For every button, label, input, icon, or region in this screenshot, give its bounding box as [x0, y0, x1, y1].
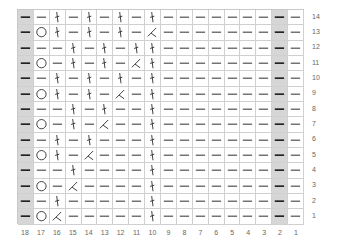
purl-icon [129, 25, 144, 39]
purl-icon [288, 148, 303, 162]
stitch-cell [18, 102, 34, 117]
stitch-cell [113, 25, 129, 40]
stitch-cell [97, 194, 113, 209]
stitch-cell [97, 179, 113, 194]
purl-icon [113, 194, 128, 208]
stitch-cell [82, 56, 98, 71]
stitch-cell [256, 41, 272, 56]
stitch-cell [272, 117, 288, 132]
stitch-cell [161, 71, 177, 86]
twisted-stitch-icon [145, 179, 160, 193]
purl-icon [225, 117, 240, 131]
purl-icon [161, 194, 176, 208]
stitch-cell [240, 209, 256, 224]
purl-icon [113, 179, 128, 193]
stitch-cell [82, 25, 98, 40]
purl-icon [240, 179, 255, 193]
purl-icon [177, 71, 192, 85]
stitch-cell [161, 25, 177, 40]
purl-icon [129, 71, 144, 85]
stitch-cell [161, 133, 177, 148]
yarn-over-icon [34, 148, 49, 162]
purl-icon [288, 10, 303, 24]
stitch-cell [288, 41, 304, 56]
stitch-cell [34, 10, 50, 25]
purl-icon [272, 163, 287, 177]
purl-icon [177, 194, 192, 208]
purl-icon [34, 41, 49, 55]
purl-icon [82, 102, 97, 116]
stitch-cell [288, 148, 304, 163]
stitch-cell [193, 148, 209, 163]
stitch-cell [34, 209, 50, 224]
purl-icon [209, 56, 224, 70]
stitch-cell [66, 163, 82, 178]
stitch-cell [177, 117, 193, 132]
purl-icon [34, 194, 49, 208]
purl-icon [225, 102, 240, 116]
purl-icon [193, 194, 208, 208]
stitch-cell [50, 102, 66, 117]
twisted-stitch-icon [82, 133, 97, 147]
row-label: 9 [312, 89, 326, 96]
stitch-cell [18, 133, 34, 148]
stitch-cell [177, 87, 193, 102]
stitch-cell [66, 179, 82, 194]
stitch-cell [161, 87, 177, 102]
stitch-cell [193, 25, 209, 40]
purl-icon [129, 117, 144, 131]
yarn-over-icon [34, 56, 49, 70]
stitch-cell [209, 117, 225, 132]
stitch-cell [97, 102, 113, 117]
stitch-cell [129, 56, 145, 71]
purl-icon [161, 117, 176, 131]
stitch-cell [145, 194, 161, 209]
stitch-cell [225, 133, 241, 148]
stitch-cell [193, 56, 209, 71]
purl-icon [240, 209, 255, 223]
stitch-cell [50, 194, 66, 209]
twisted-stitch-icon [66, 163, 81, 177]
purl-icon [256, 25, 271, 39]
purl-icon [161, 148, 176, 162]
stitch-cell [145, 179, 161, 194]
stitch-cell [272, 56, 288, 71]
purl-icon [240, 194, 255, 208]
stitch-cell [82, 102, 98, 117]
stitch-cell [193, 41, 209, 56]
stitch-cell [113, 163, 129, 178]
twisted-stitch-icon [50, 10, 65, 24]
stitch-cell [97, 133, 113, 148]
chart-row-5 [18, 148, 304, 163]
stitch-cell [18, 71, 34, 86]
column-label: 13 [97, 229, 113, 236]
stitch-cell [256, 117, 272, 132]
stitch-cell [256, 209, 272, 224]
purl-icon [256, 133, 271, 147]
stitch-cell [209, 71, 225, 86]
stitch-cell [129, 117, 145, 132]
stitch-cell [240, 133, 256, 148]
purl-icon [177, 179, 192, 193]
stitch-cell [209, 179, 225, 194]
purl-icon [225, 148, 240, 162]
stitch-cell [240, 163, 256, 178]
purl-icon [66, 148, 81, 162]
purl-icon [272, 41, 287, 55]
stitch-cell [66, 148, 82, 163]
chart-row-9 [18, 87, 304, 102]
purl-icon [129, 194, 144, 208]
stitch-cell [18, 209, 34, 224]
stitch-cell [129, 71, 145, 86]
purl-icon [34, 133, 49, 147]
stitch-cell [288, 25, 304, 40]
purl-icon [225, 87, 240, 101]
stitch-cell [50, 133, 66, 148]
stitch-cell [66, 194, 82, 209]
stitch-cell [129, 41, 145, 56]
stitch-cell [129, 10, 145, 25]
stitch-cell [66, 87, 82, 102]
purl-icon [288, 117, 303, 131]
stitch-cell [209, 102, 225, 117]
row-label: 14 [312, 13, 326, 20]
